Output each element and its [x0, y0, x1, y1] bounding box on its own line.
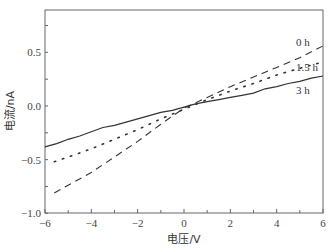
- x-tick-label: 0: [181, 217, 187, 229]
- y-axis-ticks: −1.0−0.50.00.5: [21, 26, 48, 220]
- x-tick-label: −2: [132, 217, 144, 229]
- series-line-3-h: [45, 76, 323, 147]
- y-tick-label: −1.0: [21, 207, 41, 219]
- series-label-1-5h: 1.5 h: [296, 61, 319, 73]
- series-labels: 0 h 1.5 h 3 h: [296, 36, 319, 96]
- x-axis-label: 电压/V: [167, 233, 201, 246]
- x-tick-label: 2: [228, 217, 234, 229]
- y-tick-label: 0.0: [27, 100, 41, 112]
- series-line-0-h: [54, 46, 323, 193]
- series-layer: [45, 46, 323, 193]
- plot-frame: [45, 10, 323, 213]
- x-tick-label: −4: [85, 217, 97, 229]
- x-axis-ticks: −6−4−20246: [39, 209, 326, 229]
- y-tick-label: 0.5: [27, 46, 41, 58]
- x-tick-label: 4: [274, 217, 280, 229]
- y-tick-label: −0.5: [21, 154, 41, 166]
- iv-curve-chart: −6−4−20246 −1.0−0.50.00.5 0 h 1.5 h 3 h …: [0, 0, 334, 252]
- y-axis-label: 电流/nA: [3, 90, 17, 131]
- x-tick-label: 6: [320, 217, 326, 229]
- series-line-1-5-h: [54, 62, 323, 162]
- series-label-3h: 3 h: [296, 84, 310, 96]
- series-label-0h: 0 h: [296, 36, 310, 48]
